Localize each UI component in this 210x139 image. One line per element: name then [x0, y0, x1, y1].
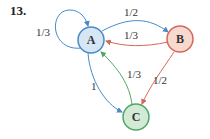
edge-label-b-a: 1/3	[124, 29, 139, 41]
edge-a-to-c: 1	[88, 53, 122, 112]
node-a-label: A	[87, 33, 96, 47]
edge-label-c-a: 1/3	[127, 68, 142, 80]
edge-label-b-c: 1/2	[153, 74, 167, 86]
node-a: A	[78, 27, 104, 53]
state-diagram: 1/3 1/2 1/3 1/3 1 1/2 A B C	[0, 0, 210, 139]
node-b: B	[167, 26, 193, 52]
edge-c-to-a: 1/3	[101, 52, 142, 105]
node-b-label: B	[176, 32, 184, 46]
node-c: C	[123, 104, 149, 130]
node-c-label: C	[132, 110, 141, 124]
edge-label-a-c: 1	[91, 80, 97, 92]
edge-label-a-b: 1/2	[124, 6, 138, 18]
edge-b-to-c: 1/2	[142, 52, 174, 104]
edge-label-a-a: 1/3	[36, 26, 51, 38]
edge-b-to-a: 1/3	[106, 29, 168, 46]
